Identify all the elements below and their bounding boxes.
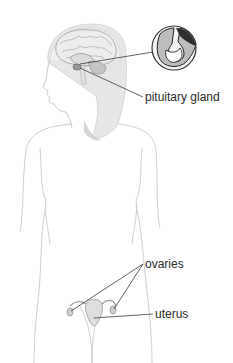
pituitary-inset: [152, 26, 196, 70]
body-outline: [20, 124, 160, 363]
ovaries-label: ovaries: [145, 258, 184, 270]
pituitary-gland-label: pituitary gland: [145, 91, 220, 103]
left-ovary: [67, 308, 73, 316]
uterus-label: uterus: [155, 308, 188, 320]
pituitary-marker: [73, 64, 81, 70]
reproductive-organs: [67, 300, 116, 326]
anatomy-figure: [0, 0, 233, 363]
